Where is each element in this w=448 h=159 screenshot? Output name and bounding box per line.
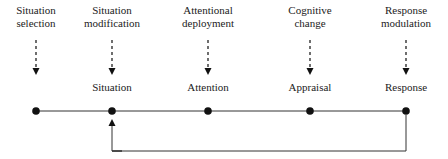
feedback-arrowhead-icon (109, 119, 116, 126)
arrowhead-icons (33, 68, 410, 75)
dashed-arrows (36, 40, 406, 67)
feedback-loop (112, 115, 406, 151)
diagram-graphics (0, 0, 448, 159)
